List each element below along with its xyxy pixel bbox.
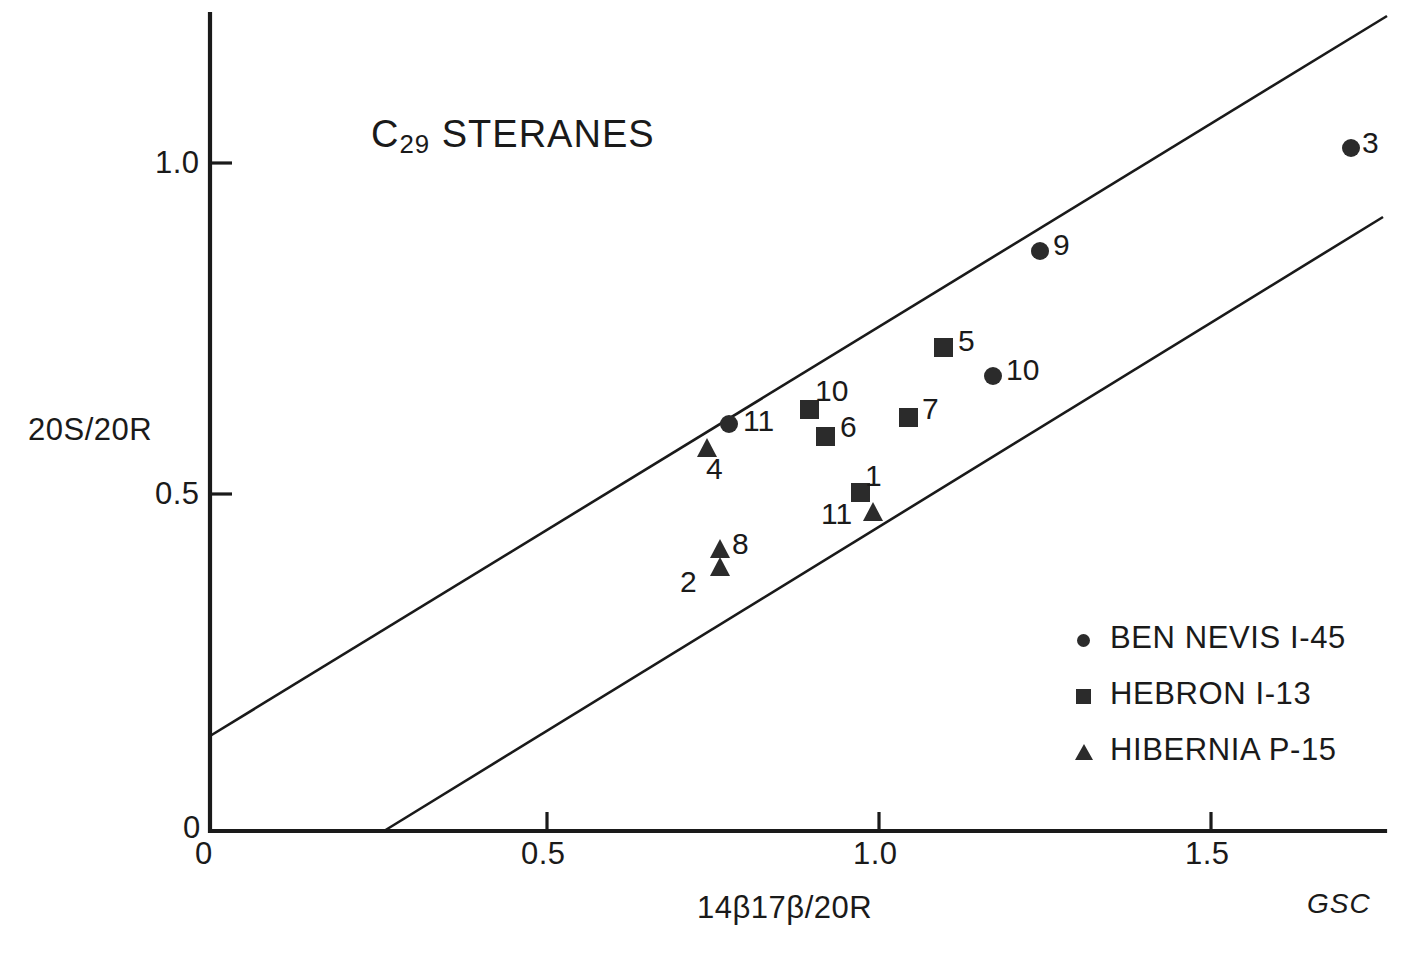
- legend-label-hibernia: HIBERNIA P-15: [1110, 732, 1337, 768]
- source-credit: GSC: [1307, 888, 1371, 920]
- point-label-3: 3: [1362, 126, 1379, 160]
- point-label-11-hibernia: 11: [821, 497, 852, 531]
- point-marker-circle: [1342, 139, 1360, 157]
- y-tick-label-05: 0.5: [155, 476, 200, 512]
- legend-item-ben-nevis[interactable]: BEN NEVIS I-45: [1070, 620, 1346, 656]
- x-axis-ticks: [547, 812, 1211, 831]
- point-marker-square: [899, 408, 918, 427]
- legend-item-hibernia[interactable]: HIBERNIA P-15: [1070, 732, 1337, 768]
- point-label-7: 7: [922, 392, 939, 426]
- point-marker-triangle: [710, 557, 730, 576]
- point-label-5: 5: [958, 324, 975, 358]
- chart-title-main: C: [371, 113, 399, 155]
- x-axis-title: 14β17β/20R: [697, 890, 872, 926]
- square-marker-icon: [1070, 681, 1096, 707]
- point-marker-square: [816, 427, 835, 446]
- chart-title: C29 STERANES: [371, 113, 655, 159]
- chart-title-subscript: 29: [399, 130, 430, 158]
- legend-label-ben-nevis: BEN NEVIS I-45: [1110, 620, 1346, 656]
- point-marker-circle: [720, 415, 738, 433]
- chart-figure: C29 STERANES 20S/20R 14β17β/20R 1.0 0.5 …: [0, 0, 1404, 954]
- point-marker-triangle: [863, 502, 883, 521]
- chart-title-rest: STERANES: [430, 113, 654, 155]
- point-label-8: 8: [732, 527, 749, 561]
- y-axis-ticks: [210, 163, 232, 494]
- point-marker-triangle: [710, 539, 730, 558]
- plot-canvas: [0, 0, 1404, 954]
- circle-marker-icon: [1070, 625, 1096, 651]
- x-tick-label-15: 1.5: [1185, 836, 1230, 872]
- legend-item-hebron[interactable]: HEBRON I-13: [1070, 676, 1311, 712]
- point-label-2: 2: [680, 565, 697, 599]
- y-axis-title: 20S/20R: [28, 412, 152, 448]
- y-tick-label-1: 1.0: [155, 145, 200, 181]
- point-label-4: 4: [706, 452, 723, 486]
- triangle-marker-icon: [1070, 737, 1096, 763]
- point-label-11-bennevis: 11: [743, 404, 774, 438]
- point-label-10-bennevis: 10: [1006, 353, 1039, 387]
- point-marker-circle: [1031, 242, 1049, 260]
- point-marker-circle: [984, 367, 1002, 385]
- point-label-10-hebron: 10: [815, 374, 848, 408]
- x-tick-label-1: 1.0: [853, 836, 898, 872]
- x-tick-label-0: 0: [195, 836, 213, 872]
- x-tick-label-05: 0.5: [521, 836, 566, 872]
- point-marker-square: [934, 338, 953, 357]
- point-label-6: 6: [840, 410, 857, 444]
- point-label-9: 9: [1053, 228, 1070, 262]
- legend-label-hebron: HEBRON I-13: [1110, 676, 1311, 712]
- point-label-1: 1: [865, 459, 882, 493]
